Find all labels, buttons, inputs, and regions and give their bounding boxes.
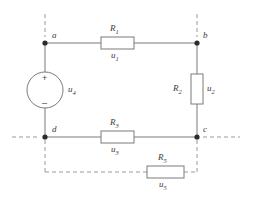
src-subscript: 4 — [73, 89, 76, 96]
resistor-r1-label: R1 — [110, 24, 119, 35]
node-dot-d — [42, 134, 47, 139]
voltage-u3-label: u3 — [111, 145, 119, 156]
node-dot-a — [42, 40, 47, 45]
node-dot-b — [194, 40, 199, 45]
node-label-b: b — [203, 31, 208, 40]
node-label-a: a — [52, 31, 57, 40]
resistor-r5-label: R5 — [158, 153, 167, 164]
voltage-u1-label: u1 — [111, 51, 119, 62]
u2-subscript: 2 — [212, 88, 215, 95]
voltage-u5-label: u5 — [159, 180, 167, 191]
r5-subscript: 5 — [164, 157, 167, 164]
resistor-r3-label: R3 — [110, 118, 119, 129]
circuit-diagram: a b c d R1 u1 R2 u2 R3 u3 R5 u5 u4 + – — [0, 0, 253, 198]
r1-subscript: 1 — [116, 28, 119, 35]
u1-subscript: 1 — [116, 55, 119, 62]
node-label-d: d — [52, 125, 57, 134]
voltage-source-label: u4 — [68, 85, 76, 96]
resistor-r3-body — [101, 131, 134, 143]
plus-sign: + — [42, 74, 47, 83]
minus-sign: – — [42, 99, 47, 108]
resistor-r2-body — [191, 74, 203, 104]
u5-subscript: 5 — [164, 184, 167, 191]
resistor-r2-label: R2 — [173, 84, 182, 95]
circuit-canvas — [0, 0, 253, 198]
r2-subscript: 2 — [179, 88, 182, 95]
resistor-r5-body — [147, 166, 184, 178]
resistor-r1-body — [101, 37, 134, 49]
r3-subscript: 3 — [116, 122, 119, 129]
node-dot-c — [194, 134, 199, 139]
voltage-u2-label: u2 — [207, 84, 215, 95]
node-label-c: c — [203, 125, 207, 134]
u3-subscript: 3 — [116, 149, 119, 156]
